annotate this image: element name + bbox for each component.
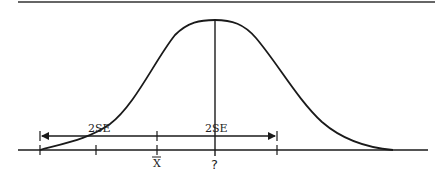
- diagram-canvas: 2SE 2SE X ?: [0, 0, 445, 178]
- label-population-mean: ?: [211, 157, 218, 172]
- label-right-2se: 2SE: [205, 122, 228, 135]
- arrow-left-icon: [41, 132, 49, 140]
- label-left-2se: 2SE: [88, 122, 111, 135]
- arrow-right-icon: [268, 132, 276, 140]
- label-sample-mean: X: [153, 157, 161, 170]
